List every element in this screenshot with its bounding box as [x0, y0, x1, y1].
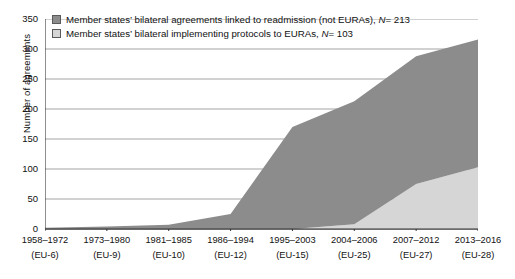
x-category-4: 1986–1994(EU-12)	[200, 234, 262, 262]
x-category-range-3: 1981–1985	[138, 234, 200, 247]
x-category-eu-3: (EU-10)	[138, 249, 200, 262]
legend-item-bilateral-agreements: Member states’ bilateral agreements link…	[52, 13, 472, 26]
legend-text-2: Member states’ bilateral implementing pr…	[66, 28, 321, 39]
x-category-range-8: 2013–2016	[447, 234, 509, 247]
legend-label-bilateral-agreements: Member states’ bilateral agreements link…	[66, 14, 410, 25]
x-category-eu-1: (EU-6)	[14, 249, 76, 262]
x-category-range-5: 1995–2003	[261, 234, 323, 247]
legend-n-value-1: = 213	[385, 14, 410, 25]
x-category-8: 2013–2016(EU-28)	[447, 234, 509, 262]
legend: Member states’ bilateral agreements link…	[52, 13, 472, 41]
x-category-range-2: 1973–1980	[76, 234, 138, 247]
y-tick-0: 0	[12, 224, 38, 234]
y-tick-300: 300	[12, 44, 38, 54]
x-category-eu-6: (EU-25)	[323, 249, 385, 262]
legend-n-value-2: = 103	[328, 28, 353, 39]
legend-swatch-dark-icon	[52, 15, 61, 24]
plot-svg	[45, 19, 478, 231]
x-category-7: 2007–2012(EU-27)	[385, 234, 447, 262]
x-category-eu-7: (EU-27)	[385, 249, 447, 262]
stacked-area-chart: Number of agreements 350 300 250 200 150…	[0, 0, 515, 279]
x-category-range-4: 1986–1994	[200, 234, 262, 247]
y-tick-200: 200	[12, 104, 38, 114]
plot-area	[45, 19, 478, 229]
x-category-range-7: 2007–2012	[385, 234, 447, 247]
x-category-eu-2: (EU-9)	[76, 249, 138, 262]
legend-item-implementing-protocols: Member states’ bilateral implementing pr…	[52, 27, 472, 40]
x-category-eu-4: (EU-12)	[200, 249, 262, 262]
area-series-group	[45, 39, 478, 229]
x-category-eu-8: (EU-28)	[447, 249, 509, 262]
x-category-6: 2004–2006(EU-25)	[323, 234, 385, 262]
x-category-range-1: 1958–1972	[14, 234, 76, 247]
x-axis-category-labels: 1958–1972(EU-6)1973–1980(EU-9)1981–1985(…	[45, 234, 478, 276]
legend-text-1: Member states’ bilateral agreements link…	[66, 14, 378, 25]
x-category-1: 1958–1972(EU-6)	[14, 234, 76, 262]
y-tick-350: 350	[12, 14, 38, 24]
x-category-2: 1973–1980(EU-9)	[76, 234, 138, 262]
x-category-3: 1981–1985(EU-10)	[138, 234, 200, 262]
y-tick-50: 50	[12, 194, 38, 204]
y-tick-100: 100	[12, 164, 38, 174]
legend-swatch-light-icon	[52, 29, 61, 38]
x-category-range-6: 2004–2006	[323, 234, 385, 247]
y-tick-150: 150	[12, 134, 38, 144]
legend-label-implementing-protocols: Member states’ bilateral implementing pr…	[66, 28, 353, 39]
x-category-eu-5: (EU-15)	[261, 249, 323, 262]
x-category-5: 1995–2003(EU-15)	[261, 234, 323, 262]
y-tick-250: 250	[12, 74, 38, 84]
